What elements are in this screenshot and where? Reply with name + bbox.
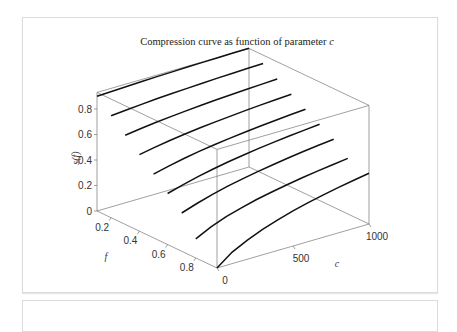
f-tick-mark — [137, 231, 139, 234]
f-tick-mark — [166, 245, 168, 248]
c-axis-label: c — [335, 258, 340, 269]
curve-f-0-5 — [154, 109, 306, 174]
z-tick-label: 0.6 — [78, 129, 92, 140]
curve-f-0-8 — [196, 158, 348, 238]
box-edge — [97, 167, 249, 211]
box-edge — [249, 48, 369, 105]
axes-box — [97, 48, 369, 268]
z-tick-label: 0 — [86, 206, 92, 217]
f-tick-mark — [109, 218, 111, 221]
chart-title-var: c — [329, 36, 334, 47]
z-tick-label: 0.8 — [78, 104, 92, 115]
curve-f-0-2 — [111, 64, 263, 116]
c-tick-label: 0 — [222, 275, 228, 286]
c-tick-mark — [293, 246, 295, 249]
chart-title: Compression curve as function of paramet… — [140, 36, 334, 47]
curve-f-0-1 — [97, 48, 249, 96]
c-tick-mark — [369, 224, 371, 227]
box-edge — [97, 92, 217, 149]
curve-f-0-4 — [139, 94, 291, 154]
f-tick-label: 0.6 — [152, 249, 166, 260]
c-tick-mark — [217, 268, 219, 271]
f-tick-label: 0.4 — [123, 235, 137, 246]
curves — [97, 48, 369, 268]
ticks: 00.20.40.60.80.20.40.60.805001000 — [78, 104, 388, 287]
f-axis-label: f — [105, 251, 109, 262]
curve-f-0-6 — [168, 124, 320, 193]
f-tick-label: 0.2 — [95, 222, 109, 233]
z-tick-label: 0.2 — [78, 180, 92, 191]
c-tick-label: 1000 — [366, 231, 389, 242]
f-tick-label: 0.8 — [180, 262, 194, 273]
c-tick-label: 500 — [293, 253, 310, 264]
chart-title-text: Compression curve as function of paramet… — [140, 36, 329, 47]
z-axis-label: s(f) — [70, 151, 82, 165]
f-tick-mark — [194, 258, 196, 261]
